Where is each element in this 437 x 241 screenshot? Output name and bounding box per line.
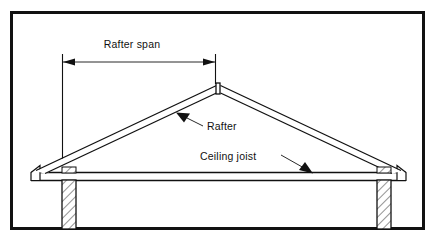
ceiling-joist-label: Ceiling joist [200,150,256,162]
rafter-label: Rafter [207,120,237,132]
ridge-board [216,83,220,94]
ceiling-joist-member [31,173,406,181]
right-wall-hatch [377,180,391,229]
right-wall-top-plate [377,167,391,173]
figure-root: Rafter span [0,0,437,241]
roof-framing-diagram: Rafter span [0,0,437,241]
left-wall-hatch [62,180,76,229]
ceiling-joist-body [31,173,406,181]
rafter-span-label: Rafter span [104,38,160,50]
left-wall-top-plate [62,167,76,173]
ridge-board-body [216,83,220,94]
